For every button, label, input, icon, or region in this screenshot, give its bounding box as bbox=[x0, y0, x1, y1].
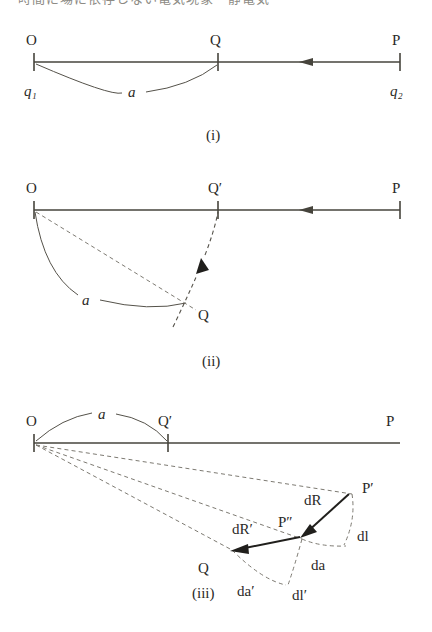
figure-i-caption: (i) bbox=[206, 127, 220, 144]
figure-iii-label-Pprime: P′ bbox=[362, 480, 374, 496]
figure-iii-label-dl: dl bbox=[357, 528, 369, 544]
figure-iii-arrowhead-dR-prime bbox=[230, 544, 249, 554]
figure-iii-ray-O-to-Pdprime bbox=[36, 445, 302, 539]
figure-iii-ray-O-to-Pprime bbox=[36, 445, 352, 494]
figure-iii-label-P: P bbox=[386, 413, 394, 429]
figure-ii-caption: (ii) bbox=[202, 353, 220, 370]
figure-iii-group: O Q′ P a P′ P″ dR dR′ dl da da′ dl′ Q (i… bbox=[26, 406, 400, 603]
figure-iii-label-dR-prime: dR′ bbox=[232, 521, 253, 537]
figure-iii-label-da-right: da bbox=[311, 557, 326, 573]
figure-iii-label-dR: dR bbox=[304, 492, 322, 508]
figure-i-arrowhead bbox=[299, 58, 313, 66]
figure-i-label-q2: q₂ bbox=[390, 83, 403, 99]
figure-iii-arc-dl-prime bbox=[288, 539, 302, 585]
figure-ii-label-a: a bbox=[82, 292, 90, 308]
figure-iii-label-Qprime: Q′ bbox=[158, 413, 172, 429]
figure-i-arc-left bbox=[36, 64, 122, 93]
figure-ii-label-P: P bbox=[392, 180, 400, 196]
figure-i-label-q1: q₁ bbox=[24, 83, 37, 99]
figure-iii-arc-dl bbox=[344, 494, 353, 545]
figure-i-label-O: O bbox=[26, 32, 37, 48]
figure-ii-dashed-chord-OQ bbox=[36, 212, 196, 310]
figure-ii-label-O: O bbox=[26, 180, 37, 196]
figure-iii-label-da-bottom: da′ bbox=[237, 583, 254, 599]
figure-ii-dashed-arrowhead bbox=[196, 258, 209, 274]
figure-i-label-Q: Q bbox=[210, 32, 221, 48]
figure-page: 時間に場に依存しない電気現象・静電気 O Q P q₁ q₂ a (i) bbox=[0, 0, 432, 632]
figure-iii-label-a: a bbox=[98, 406, 106, 422]
figure-ii-label-Q: Q bbox=[198, 307, 209, 323]
figure-iii-label-Q: Q bbox=[198, 560, 209, 576]
physics-figure-svg: O Q P q₁ q₂ a (i) O Q′ bbox=[0, 0, 432, 632]
figure-iii-arc-da-bottom bbox=[232, 550, 286, 585]
figure-i-group: O Q P q₁ q₂ a (i) bbox=[24, 32, 403, 144]
figure-ii-arrowhead bbox=[299, 206, 313, 214]
figure-iii-arc-da-right bbox=[302, 539, 346, 546]
figure-iii-vector-dR-prime bbox=[240, 537, 300, 549]
figure-iii-ray-O-to-Q bbox=[36, 445, 232, 550]
figure-ii-dashed-path-lower bbox=[173, 275, 197, 327]
figure-i-label-P: P bbox=[392, 32, 400, 48]
figure-ii-label-Qprime: Q′ bbox=[208, 180, 222, 196]
figure-i-label-a: a bbox=[128, 84, 136, 100]
figure-ii-dashed-path-upper bbox=[205, 212, 218, 255]
figure-i-arc-right bbox=[146, 65, 217, 92]
figure-iii-label-dl-prime: dl′ bbox=[292, 587, 307, 603]
figure-ii-group: O Q′ P a Q (ii) bbox=[26, 180, 400, 370]
figure-iii-label-O: O bbox=[26, 413, 37, 429]
figure-iii-caption: (iii) bbox=[192, 585, 215, 602]
figure-iii-arc-left bbox=[36, 413, 92, 441]
figure-ii-arc-lower bbox=[100, 300, 186, 307]
figure-iii-label-Pdprime: P″ bbox=[278, 514, 293, 530]
